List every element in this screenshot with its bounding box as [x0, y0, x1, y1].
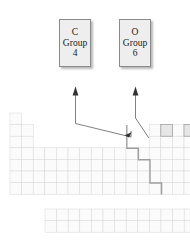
element-cell	[10, 183, 22, 195]
element-cell-fblock	[173, 209, 185, 221]
callout-carbon-group-label: Group	[63, 38, 87, 49]
element-cell	[10, 136, 22, 148]
element-cell	[172, 148, 184, 160]
element-cell	[172, 125, 184, 137]
element-cell-fblock	[45, 221, 57, 233]
element-cell	[33, 183, 45, 195]
element-cell	[184, 159, 190, 171]
element-cell	[103, 183, 115, 195]
element-cell	[91, 171, 103, 183]
element-cell-fblock	[103, 221, 115, 233]
element-cell	[149, 183, 161, 195]
element-cell	[138, 183, 150, 195]
callout-carbon-symbol: C	[72, 27, 78, 38]
element-cell	[10, 171, 22, 183]
callout-oxygen-group-number: 6	[133, 48, 138, 59]
element-cell	[103, 171, 115, 183]
element-cell	[161, 136, 173, 148]
element-cell	[161, 171, 173, 183]
element-cell	[114, 159, 126, 171]
element-cell	[68, 159, 80, 171]
element-cell	[80, 183, 92, 195]
element-cell	[91, 183, 103, 195]
element-cell	[161, 159, 173, 171]
element-cell-fblock	[173, 221, 185, 233]
element-cell	[114, 183, 126, 195]
element-cell-fblock	[126, 209, 138, 221]
element-cell-fblock	[115, 221, 127, 233]
arrowhead-carbon-cell	[125, 132, 132, 137]
element-cell	[172, 171, 184, 183]
element-cell-fblock	[184, 221, 190, 233]
element-cell	[103, 159, 115, 171]
element-cell	[114, 148, 126, 160]
element-cell-fblock	[161, 221, 173, 233]
element-cell-fblock	[68, 221, 80, 233]
element-cell	[149, 136, 161, 148]
arrowhead-carbon	[73, 87, 79, 96]
element-cell	[138, 159, 150, 171]
callout-oxygen-symbol: O	[132, 27, 139, 38]
element-cell	[22, 125, 34, 137]
element-cell	[138, 171, 150, 183]
leader-line-carbon	[76, 95, 132, 137]
element-cell	[22, 171, 34, 183]
element-cell	[184, 136, 190, 148]
periodic-table-fblock-grid	[45, 209, 190, 232]
element-cell	[10, 148, 22, 160]
element-cell-fblock	[80, 221, 92, 233]
element-cell	[172, 159, 184, 171]
element-cell	[45, 148, 57, 160]
element-cell	[80, 148, 92, 160]
element-cell-fblock	[80, 209, 92, 221]
periodic-table-main-grid	[10, 113, 190, 194]
element-cell	[161, 125, 173, 137]
metal-nonmetal-staircase	[127, 125, 162, 195]
element-cell	[56, 171, 68, 183]
element-cell	[45, 183, 57, 195]
element-cell	[45, 159, 57, 171]
element-cell	[161, 148, 173, 160]
callout-carbon-group-number: 4	[73, 48, 78, 59]
element-cell-fblock	[138, 209, 150, 221]
element-cell	[45, 171, 57, 183]
element-cell	[103, 148, 115, 160]
element-cell	[22, 159, 34, 171]
element-cell	[56, 148, 68, 160]
element-cell-fblock	[115, 209, 127, 221]
element-cell	[10, 113, 22, 125]
element-cell	[68, 183, 80, 195]
oxygen-cell	[184, 125, 190, 137]
element-cell	[33, 171, 45, 183]
element-cell	[172, 183, 184, 195]
element-cell	[126, 159, 138, 171]
element-cell-fblock	[149, 221, 161, 233]
callout-box-carbon[interactable]: C Group 4	[59, 19, 91, 67]
element-cell	[126, 148, 138, 160]
element-cell	[149, 159, 161, 171]
element-cell	[149, 125, 161, 137]
element-cell	[80, 171, 92, 183]
callout-oxygen-group-label: Group	[123, 38, 147, 49]
element-cell-fblock	[45, 209, 57, 221]
element-cell	[184, 125, 190, 137]
element-cell-fblock	[184, 209, 190, 221]
element-cell-fblock	[138, 221, 150, 233]
element-cell-fblock	[126, 221, 138, 233]
element-cell	[68, 148, 80, 160]
element-cell	[22, 183, 34, 195]
arrowhead-oxygen	[133, 87, 139, 96]
element-cell	[184, 183, 190, 195]
element-cell	[56, 183, 68, 195]
callout-box-oxygen[interactable]: O Group 6	[119, 19, 151, 67]
element-cell	[172, 136, 184, 148]
element-cell	[138, 148, 150, 160]
element-cell	[149, 171, 161, 183]
element-cell	[114, 171, 126, 183]
element-cell	[126, 171, 138, 183]
element-cell	[10, 159, 22, 171]
diagram-canvas: C Group 4 O Group 6	[0, 0, 190, 243]
element-cell	[126, 183, 138, 195]
element-cell-fblock	[57, 221, 69, 233]
leader-line-oxygen	[136, 95, 149, 138]
